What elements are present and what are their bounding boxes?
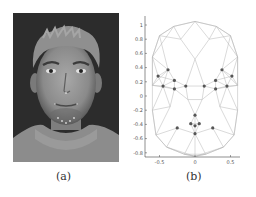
svg-text:-0.6: -0.6: [133, 135, 143, 141]
svg-text:-0.4: -0.4: [133, 121, 143, 127]
svg-text:0: 0: [140, 93, 143, 99]
svg-text:0.6: 0.6: [135, 50, 143, 56]
face-photo: [13, 13, 119, 162]
face-mesh-plot: 10.80.60.40.20-0.2-0.4-0.6-0.8-0.500.5: [128, 0, 256, 197]
caption-a: (a): [56, 170, 71, 183]
svg-text:1: 1: [140, 22, 143, 28]
landmark-points: [156, 68, 233, 135]
svg-text:-0.5: -0.5: [155, 159, 165, 165]
svg-text:0: 0: [193, 159, 196, 165]
face-photo-illustration: [13, 13, 119, 162]
svg-text:0.5: 0.5: [227, 159, 235, 165]
svg-text:-0.8: -0.8: [133, 150, 143, 156]
svg-text:-0.2: -0.2: [133, 107, 143, 113]
caption-b: (b): [186, 170, 202, 183]
mesh-edges: [152, 21, 237, 156]
mesh-chart: 10.80.60.40.20-0.2-0.4-0.6-0.8-0.500.5: [128, 0, 256, 197]
svg-text:0.4: 0.4: [135, 64, 143, 70]
svg-text:0.8: 0.8: [135, 36, 143, 42]
svg-text:0.2: 0.2: [135, 79, 143, 85]
